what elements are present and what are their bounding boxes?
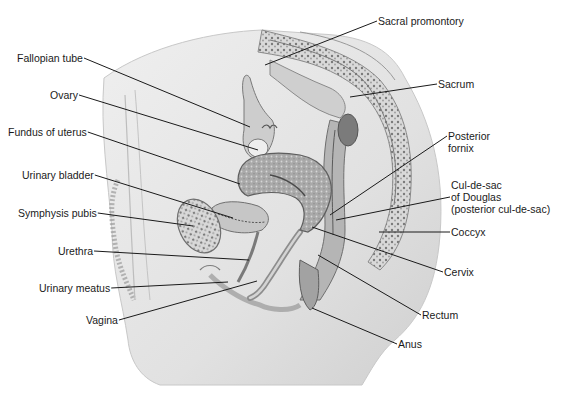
label-posterior-fornix: Posterior fornix: [448, 130, 490, 154]
label-symphysis-pubis: Symphysis pubis: [18, 207, 97, 219]
label-vagina: Vagina: [86, 314, 118, 326]
label-fallopian-tube: Fallopian tube: [17, 52, 83, 64]
label-urinary-meatus: Urinary meatus: [39, 282, 110, 294]
label-anus: Anus: [398, 338, 422, 350]
label-ovary: Ovary: [50, 89, 78, 101]
label-cul-de-sac: Cul-de-sac of Douglas (posterior cul-de-…: [451, 179, 550, 215]
label-fundus-of-uterus: Fundus of uterus: [8, 126, 87, 138]
label-urinary-bladder: Urinary bladder: [22, 169, 94, 181]
anatomy-diagram: Fallopian tube Ovary Fundus of uterus Ur…: [0, 0, 566, 393]
label-sacral-promontory: Sacral promontory: [378, 15, 464, 27]
label-coccyx: Coccyx: [451, 226, 485, 238]
label-urethra: Urethra: [58, 245, 93, 257]
label-cervix: Cervix: [444, 266, 474, 278]
label-sacrum: Sacrum: [438, 78, 474, 90]
label-rectum: Rectum: [422, 309, 458, 321]
